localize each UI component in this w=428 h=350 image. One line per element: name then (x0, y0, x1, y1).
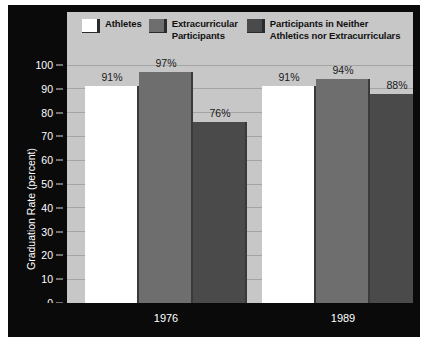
x-tick-label-1989: 1989 (331, 312, 355, 324)
y-tick-label: 60 (41, 154, 53, 166)
x-axis-band: 19761989 (8, 303, 420, 337)
bar-value-label: 91% (101, 71, 122, 83)
y-tick-mark (56, 207, 63, 208)
y-tick-mark (56, 65, 63, 66)
y-tick-mark (56, 136, 63, 137)
y-tick-mark (56, 88, 63, 89)
bar-1989-series-1[interactable] (316, 79, 370, 303)
bar-value-label: 91% (278, 71, 299, 83)
legend-item-2[interactable]: Participants in Neither Athletics nor Ex… (247, 18, 401, 41)
legend-item-1[interactable]: Extracurricular Participants (149, 18, 238, 41)
legend-item-0[interactable]: Athletes (82, 18, 142, 33)
y-tick-label: 50 (41, 178, 53, 190)
bar-chart-figure: AthletesExtracurricular ParticipantsPart… (0, 0, 428, 350)
legend-label: Participants in Neither Athletics nor Ex… (270, 18, 401, 41)
legend-swatch-icon (149, 19, 167, 33)
y-tick-label: 40 (41, 202, 53, 214)
bar-value-label: 88% (386, 79, 407, 91)
y-tick-mark (56, 279, 63, 280)
bar-value-label: 94% (332, 64, 353, 76)
y-tick-mark (56, 231, 63, 232)
y-tick-label: 30 (41, 226, 53, 238)
legend-swatch-icon (247, 19, 265, 33)
y-axis-title: Graduation Rate (percent) (25, 148, 37, 270)
y-tick-label: 90 (41, 83, 53, 95)
y-tick-label: 20 (41, 249, 53, 261)
legend-label: Athletes (105, 18, 142, 30)
y-tick-label: 70 (41, 130, 53, 142)
bar-value-label: 97% (155, 57, 176, 69)
bar-1976-series-1[interactable] (139, 72, 193, 303)
gridline (67, 65, 413, 66)
legend-swatch-icon (82, 19, 100, 33)
y-tick-mark (56, 160, 63, 161)
y-axis-band: 0102030405060708090100 Graduation Rate (… (8, 5, 67, 337)
bar-1976-series-0[interactable] (85, 86, 139, 303)
y-tick-mark (56, 184, 63, 185)
bar-1989-series-0[interactable] (262, 86, 316, 303)
bar-value-label: 76% (209, 107, 230, 119)
y-tick-label: 80 (41, 107, 53, 119)
x-tick-label-1976: 1976 (154, 312, 178, 324)
y-tick-label: 10 (41, 273, 53, 285)
y-tick-mark (56, 255, 63, 256)
y-tick-mark (56, 112, 63, 113)
bar-1976-series-2[interactable] (193, 122, 247, 303)
plot-area: AthletesExtracurricular ParticipantsPart… (67, 12, 413, 303)
chart-legend: AthletesExtracurricular ParticipantsPart… (67, 12, 413, 41)
legend-label: Extracurricular Participants (172, 18, 238, 41)
bar-1989-series-2[interactable] (370, 94, 413, 303)
y-tick-label: 100 (35, 59, 53, 71)
